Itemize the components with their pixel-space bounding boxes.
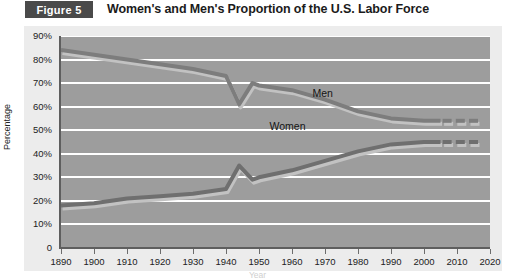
- x-tick: [457, 249, 458, 254]
- x-tick: [490, 249, 491, 254]
- series-svg: [61, 36, 490, 248]
- y-tick-label: 40%: [22, 148, 52, 159]
- x-tick-label: 2020: [473, 256, 507, 267]
- plot-area: Men Women: [61, 36, 490, 248]
- x-tick: [160, 249, 161, 254]
- x-tick-label: 1960: [275, 256, 309, 267]
- y-axis-line: [59, 36, 61, 249]
- y-tick-label: 70%: [22, 77, 52, 88]
- page-title: Women's and Men's Proportion of the U.S.…: [107, 2, 429, 16]
- x-tick-label: 1940: [209, 256, 243, 267]
- x-tick: [424, 249, 425, 254]
- x-tick-label: 1980: [341, 256, 375, 267]
- projection-dash-women: [456, 140, 465, 144]
- x-tick: [226, 249, 227, 254]
- x-axis-title: Year: [0, 270, 515, 280]
- x-tick: [358, 249, 359, 254]
- y-tick-label: 80%: [22, 54, 52, 65]
- y-tick-label: 20%: [22, 195, 52, 206]
- x-tick-label: 2000: [407, 256, 441, 267]
- plot-canvas: [61, 36, 490, 248]
- x-tick-label: 1990: [374, 256, 408, 267]
- series-line-women: [61, 142, 441, 206]
- projection-dash-women: [443, 140, 452, 144]
- x-axis-line: [59, 247, 490, 249]
- x-tick: [127, 249, 128, 254]
- figure-number-badge: Figure 5: [25, 1, 93, 18]
- y-tick-label: 90%: [22, 30, 52, 41]
- x-tick-label: 1970: [308, 256, 342, 267]
- x-tick-label: 1900: [77, 256, 111, 267]
- x-tick-label: 1920: [143, 256, 177, 267]
- x-tick: [94, 249, 95, 254]
- projection-dash-women: [469, 140, 478, 144]
- y-tick-label: 10%: [22, 218, 52, 229]
- figure-header: Figure 5 Women's and Men's Proportion of…: [0, 0, 515, 22]
- y-tick-label: 50%: [22, 124, 52, 135]
- y-tick-label: 30%: [22, 171, 52, 182]
- x-tick-label: 1930: [176, 256, 210, 267]
- x-tick-label: 1910: [110, 256, 144, 267]
- x-tick-label: 2010: [440, 256, 474, 267]
- x-tick: [193, 249, 194, 254]
- x-tick: [325, 249, 326, 254]
- series-label-men: Men: [312, 87, 332, 99]
- y-axis-title: Percentage: [2, 104, 12, 150]
- y-tick-label: 0: [22, 242, 52, 253]
- y-tick-label: 60%: [22, 101, 52, 112]
- x-tick-label: 1950: [242, 256, 276, 267]
- x-tick: [61, 249, 62, 254]
- x-tick: [292, 249, 293, 254]
- x-tick-label: 1890: [44, 256, 78, 267]
- x-tick: [391, 249, 392, 254]
- x-tick: [259, 249, 260, 254]
- projection-dash-men: [456, 119, 465, 123]
- projection-dash-men: [443, 119, 452, 123]
- series-label-women: Women: [270, 120, 306, 132]
- series-shadow-men: [63, 53, 443, 124]
- projection-dash-men: [469, 119, 478, 123]
